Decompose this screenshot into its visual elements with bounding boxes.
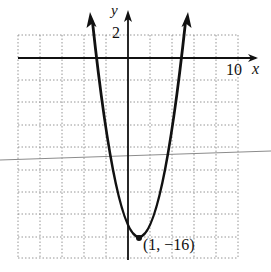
stray-line: [0, 151, 271, 160]
parabola-curve: [93, 22, 186, 237]
y-axis-label: y: [111, 2, 118, 19]
x-axis-label: x: [252, 60, 259, 78]
graph-canvas: [0, 0, 271, 272]
vertex-point: [136, 235, 142, 241]
vertex-label: (1, −16): [143, 236, 195, 254]
x-tick-label: 10: [226, 61, 242, 79]
y-tick-label: 2: [112, 24, 120, 42]
